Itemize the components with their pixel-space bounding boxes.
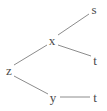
graph-node-y: y bbox=[50, 91, 57, 104]
graph-edge-z-y bbox=[14, 76, 48, 94]
graph-node-t2: t bbox=[93, 91, 97, 104]
graph-figure: sxtzyt bbox=[0, 0, 107, 111]
graph-node-s: s bbox=[91, 3, 96, 16]
edge-group bbox=[14, 14, 91, 97]
graph-node-z: z bbox=[6, 64, 12, 77]
graph-edge-x-t1 bbox=[58, 45, 91, 56]
graph-edge-x-s bbox=[58, 14, 89, 35]
graph-node-t1: t bbox=[93, 54, 97, 67]
graph-edge-z-x bbox=[14, 45, 47, 65]
graph-node-x: x bbox=[49, 34, 56, 47]
